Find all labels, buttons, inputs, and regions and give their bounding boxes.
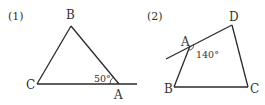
side-cd	[232, 25, 248, 87]
vertex-label-c: C	[26, 78, 35, 92]
figure-2-number: (2)	[147, 10, 163, 23]
vertex-label-d: D	[229, 10, 239, 24]
vertex-label-c: C	[250, 82, 259, 96]
figure-1-number: (1)	[8, 10, 24, 23]
angle-label-50: 50°	[94, 73, 111, 84]
side-cb	[37, 26, 71, 84]
vertex-label-b: B	[66, 8, 75, 22]
angle-label-140: 140°	[196, 49, 219, 60]
diagram-canvas: (1) B C A 50° (2) A B C D 140°	[0, 0, 265, 105]
vertex-label-a: A	[180, 35, 190, 49]
figure-1: (1) B C A 50°	[8, 8, 137, 102]
vertex-label-b: B	[164, 82, 173, 96]
figure-2: (2) A B C D 140°	[147, 10, 259, 96]
side-ab	[174, 46, 190, 87]
vertex-label-a: A	[113, 88, 123, 102]
